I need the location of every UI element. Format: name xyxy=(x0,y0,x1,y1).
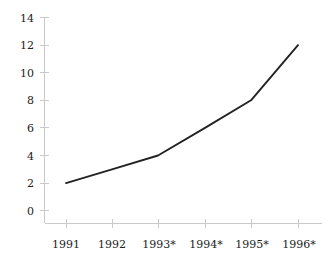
y-tick-label: 0 xyxy=(27,205,34,218)
y-tick-label: 14 xyxy=(20,12,34,25)
x-tick-label: 1993* xyxy=(142,238,176,251)
y-tick-label: 10 xyxy=(20,67,34,80)
y-tick-label: 4 xyxy=(27,150,34,163)
x-tick-label: 1996* xyxy=(282,238,316,251)
x-tick-label: 1994* xyxy=(189,238,223,251)
chart-canvas: 14 12 10 8 6 4 2 0 1991 1992 1993* 1994*… xyxy=(0,0,334,261)
y-tick-label: 12 xyxy=(20,39,34,52)
x-tick-label: 1992 xyxy=(98,238,126,251)
x-tick-label: 1991 xyxy=(52,238,80,251)
x-tick-label: 1995* xyxy=(235,238,269,251)
chart-background xyxy=(0,0,334,261)
y-tick-label: 8 xyxy=(27,94,34,107)
y-tick-label: 6 xyxy=(27,122,34,135)
y-tick-label: 2 xyxy=(27,177,34,190)
line-chart: 14 12 10 8 6 4 2 0 1991 1992 1993* 1994*… xyxy=(0,0,334,261)
